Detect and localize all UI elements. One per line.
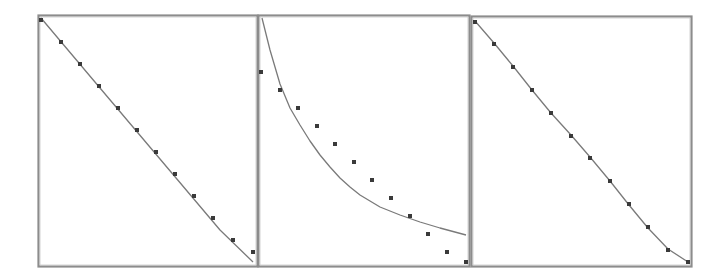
data-point-marker — [492, 42, 496, 46]
data-point-marker — [588, 156, 592, 160]
plot-panel-3 — [472, 17, 692, 267]
plot-panel-2 — [259, 16, 470, 267]
data-point-marker — [59, 40, 63, 44]
data-point-marker — [686, 260, 690, 264]
data-point-marker — [78, 62, 82, 66]
data-point-marker — [408, 214, 412, 218]
data-point-marker — [511, 65, 515, 69]
data-point-marker — [627, 202, 631, 206]
three-panel-plot — [0, 0, 727, 279]
data-point-marker — [370, 178, 374, 182]
data-point-marker — [296, 106, 300, 110]
data-point-marker — [530, 88, 534, 92]
data-point-marker — [192, 194, 196, 198]
data-point-marker — [473, 20, 477, 24]
plot-panel-1 — [39, 16, 258, 267]
data-point-marker — [315, 124, 319, 128]
data-point-marker — [549, 111, 553, 115]
data-point-marker — [211, 216, 215, 220]
data-point-marker — [135, 128, 139, 132]
data-point-marker — [464, 260, 468, 264]
data-point-marker — [445, 250, 449, 254]
figure — [0, 0, 727, 279]
data-point-marker — [97, 84, 101, 88]
data-point-marker — [154, 150, 158, 154]
data-point-marker — [569, 134, 573, 138]
data-point-marker — [259, 70, 263, 74]
data-point-marker — [352, 160, 356, 164]
data-point-marker — [646, 225, 650, 229]
data-point-marker — [389, 196, 393, 200]
panel-frame — [259, 16, 470, 267]
data-point-marker — [426, 232, 430, 236]
data-point-marker — [116, 106, 120, 110]
data-point-marker — [278, 88, 282, 92]
data-point-marker — [251, 250, 255, 254]
panel-frame — [472, 17, 692, 267]
data-point-marker — [173, 172, 177, 176]
data-point-marker — [333, 142, 337, 146]
data-point-marker — [666, 248, 670, 252]
data-point-marker — [39, 18, 43, 22]
data-point-marker — [608, 179, 612, 183]
data-point-marker — [231, 238, 235, 242]
